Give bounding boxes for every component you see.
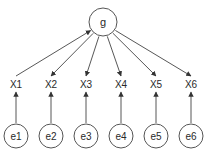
error-node-e6: e6 [179, 124, 203, 148]
edge-g-to-x4 [107, 36, 121, 76]
error-label: e5 [150, 131, 162, 142]
edge-g-to-x5 [113, 33, 156, 76]
diagram-svg: g X1 X2 X3 X4 X5 X6 e1 e2 e3 [0, 0, 206, 162]
edge-g-to-x3 [86, 36, 99, 76]
observed-label-x3: X3 [80, 79, 93, 90]
latent-node-g: g [89, 8, 117, 36]
error-node-e1: e1 [4, 124, 28, 148]
edge-x1-to-g [16, 31, 91, 76]
error-label: e1 [10, 131, 22, 142]
error-label: e4 [115, 131, 127, 142]
observed-label-x1: X1 [10, 79, 23, 90]
error-node-e5: e5 [144, 124, 168, 148]
error-node-e2: e2 [39, 124, 63, 148]
observed-label-x5: X5 [150, 79, 163, 90]
error-node-e4: e4 [109, 124, 133, 148]
edges-group [16, 30, 191, 123]
error-label: e6 [185, 131, 197, 142]
error-label: e2 [45, 131, 57, 142]
edge-g-to-x6 [115, 30, 191, 76]
latent-label: g [100, 16, 106, 28]
errors-group: e1 e2 e3 e4 e5 e6 [4, 124, 203, 148]
observed-label-x4: X4 [115, 79, 128, 90]
observed-group: X1 X2 X3 X4 X5 X6 [10, 79, 198, 90]
observed-label-x2: X2 [45, 79, 58, 90]
observed-label-x6: X6 [185, 79, 198, 90]
factor-diagram: g X1 X2 X3 X4 X5 X6 e1 e2 e3 [0, 0, 206, 162]
error-node-e3: e3 [74, 124, 98, 148]
error-label: e3 [80, 131, 92, 142]
edge-g-to-x2 [51, 33, 93, 76]
